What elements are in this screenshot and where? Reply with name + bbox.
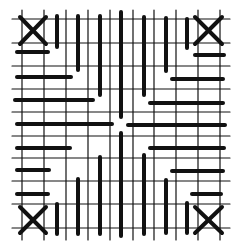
- stitch-pattern-diagram: [0, 0, 236, 251]
